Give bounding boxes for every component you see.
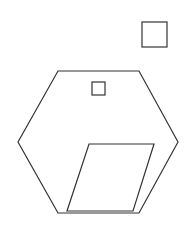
small-square-shape	[92, 82, 105, 95]
top-right-square-shape	[142, 22, 167, 47]
diagram-canvas	[0, 0, 188, 231]
hexagon-shape	[18, 71, 178, 213]
parallelogram-shape	[67, 144, 154, 211]
